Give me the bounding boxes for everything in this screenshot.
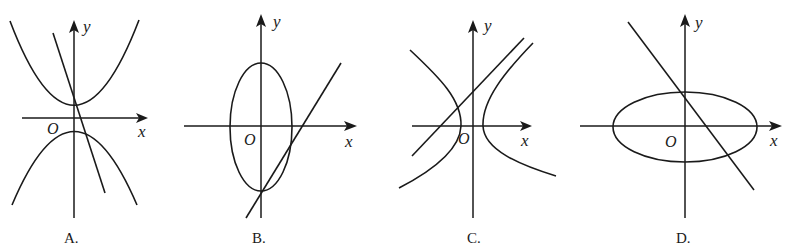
x-axis-label: x	[769, 131, 778, 150]
line	[53, 33, 105, 193]
origin-label: O	[458, 130, 470, 147]
x-axis-label: x	[520, 131, 529, 150]
figure-a: y x O A.	[10, 17, 148, 246]
figure-c: y x O C.	[399, 16, 556, 246]
line	[628, 22, 754, 190]
y-axis-label: y	[482, 16, 492, 35]
origin-label: O	[665, 133, 677, 150]
y-axis-label: y	[693, 13, 703, 32]
option-label: A.	[64, 230, 79, 246]
y-axis-label: y	[81, 17, 91, 36]
hyperbola-left-branch	[399, 50, 461, 188]
conic-figures: y x O A. y x O B. y x O C.	[0, 0, 786, 247]
origin-label: O	[244, 131, 256, 148]
figure-d: y x O D.	[580, 13, 782, 246]
hyperbola-right-branch	[483, 43, 556, 176]
option-label: C.	[467, 230, 481, 246]
option-label: D.	[676, 230, 691, 246]
origin-label: O	[47, 120, 59, 137]
y-axis-label: y	[271, 12, 281, 31]
x-axis-label: x	[344, 132, 353, 151]
figure-b: y x O B.	[184, 12, 357, 246]
x-axis-label: x	[137, 122, 146, 141]
option-label: B.	[252, 230, 266, 246]
